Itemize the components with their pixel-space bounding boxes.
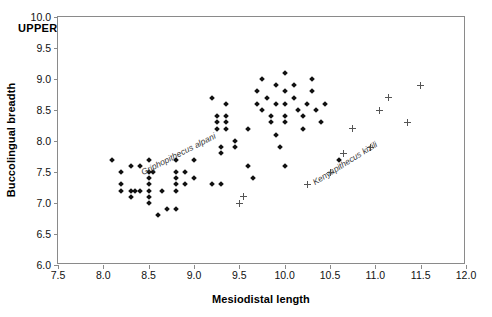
data-point [223, 126, 229, 132]
data-point [314, 107, 320, 113]
data-point [255, 89, 261, 95]
data-point [246, 126, 252, 132]
data-point [218, 182, 224, 188]
x-tick-label: 7.5 [51, 269, 66, 281]
data-point [236, 200, 243, 207]
data-point [323, 101, 329, 107]
data-point [159, 188, 165, 194]
data-point [259, 76, 265, 82]
data-point [119, 182, 125, 188]
data-point [173, 182, 179, 188]
data-point [119, 169, 125, 175]
y-tick-label: 6.5 [36, 228, 51, 240]
y-axis-title: Buccolingual breadth [4, 16, 18, 264]
data-point [309, 89, 315, 95]
data-point [282, 89, 288, 95]
plot-data-area [58, 17, 464, 263]
y-tick-label: 9.0 [36, 73, 51, 85]
y-tick-label: 7.5 [36, 166, 51, 178]
y-tick-mark [54, 265, 58, 266]
data-point [277, 144, 283, 150]
data-point [119, 188, 125, 194]
data-point [291, 95, 297, 101]
x-tick-label: 12.0 [456, 269, 476, 281]
y-tick-label: 8.0 [36, 135, 51, 147]
data-point [273, 132, 279, 138]
data-point [255, 101, 261, 107]
data-point [209, 95, 215, 101]
x-tick-mark [375, 265, 376, 269]
x-tick-label: 11.0 [365, 269, 385, 281]
data-point [417, 82, 424, 89]
data-point [137, 188, 143, 194]
data-point [110, 157, 116, 163]
x-tick-label: 11.5 [411, 269, 431, 281]
data-point [268, 120, 274, 126]
x-tick-mark [103, 265, 104, 269]
data-point [282, 70, 288, 76]
data-point [291, 82, 297, 88]
data-point [246, 163, 252, 169]
scatter-plot-figure: UPPER I1 Buccolingual breadth Mesiodista… [0, 0, 492, 317]
data-point [214, 126, 220, 132]
y-tick-label: 8.5 [36, 104, 51, 116]
data-point [385, 94, 392, 101]
plot-frame: 6.06.57.07.58.08.59.09.510.0 7.58.08.59.… [57, 16, 465, 264]
x-tick-mark [149, 265, 150, 269]
data-point [318, 120, 324, 126]
data-point [214, 120, 220, 126]
data-point [300, 126, 306, 132]
data-point [164, 206, 170, 212]
x-axis-title: Mesiodistal length [57, 293, 465, 305]
data-point [146, 188, 152, 194]
x-tick-mark [285, 265, 286, 269]
x-tick-label: 10.0 [274, 269, 294, 281]
data-point [259, 107, 265, 113]
data-point [349, 125, 356, 132]
y-tick-label: 7.0 [36, 197, 51, 209]
data-point [128, 194, 134, 200]
data-point [250, 175, 256, 181]
data-point [304, 181, 311, 188]
data-point [300, 113, 306, 119]
data-point [282, 120, 288, 126]
data-point [155, 213, 161, 219]
data-point [223, 101, 229, 107]
x-tick-label: 8.5 [141, 269, 156, 281]
data-point [173, 169, 179, 175]
data-point [273, 101, 279, 107]
y-tick-label: 9.5 [36, 42, 51, 54]
x-tick-mark [58, 265, 59, 269]
data-point [232, 144, 238, 150]
data-point [209, 182, 215, 188]
data-point [304, 101, 310, 107]
x-tick-mark [194, 265, 195, 269]
data-point [182, 182, 188, 188]
data-point [404, 119, 411, 126]
x-tick-label: 9.0 [187, 269, 202, 281]
x-tick-mark [421, 265, 422, 269]
data-point [282, 163, 288, 169]
data-point [223, 120, 229, 126]
data-point [268, 113, 274, 119]
y-tick-label: 6.0 [36, 259, 51, 271]
data-point [282, 101, 288, 107]
data-point [182, 169, 188, 175]
data-point [173, 206, 179, 212]
data-point [191, 157, 197, 163]
data-point [146, 182, 152, 188]
data-point [273, 82, 279, 88]
data-point [218, 151, 224, 157]
data-point [264, 95, 270, 101]
x-tick-mark [466, 265, 467, 269]
data-point [218, 144, 224, 150]
x-tick-label: 10.5 [320, 269, 340, 281]
data-point [295, 107, 301, 113]
y-axis-title-text: Buccolingual breadth [5, 83, 17, 197]
data-point [128, 163, 134, 169]
data-point [146, 200, 152, 206]
data-point [309, 76, 315, 82]
data-point [173, 188, 179, 194]
data-point [191, 175, 197, 181]
data-point [240, 193, 247, 200]
